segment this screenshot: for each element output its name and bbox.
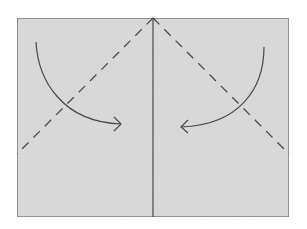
diagram-canvas [0, 0, 307, 229]
fold-diagram [0, 0, 307, 229]
